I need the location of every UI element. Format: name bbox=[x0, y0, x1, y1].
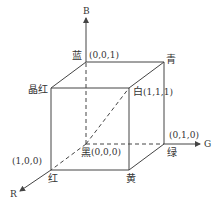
b-axis-label: B bbox=[83, 6, 90, 16]
g-axis-label: G bbox=[204, 139, 211, 149]
rgb-cube-diagram: B G R 蓝 (0,0,1) 青 晶红 白 (1,1,1) 黑 (0,0,0)… bbox=[0, 0, 221, 206]
vertex-magenta-name: 晶红 bbox=[28, 83, 48, 95]
vertex-red-coord: (1,0,0) bbox=[12, 156, 42, 166]
r-axis bbox=[20, 170, 51, 191]
vertex-red-name: 红 bbox=[48, 172, 58, 184]
vertex-blue-coord: (0,0,1) bbox=[89, 50, 119, 60]
edge-blue-magenta bbox=[51, 62, 86, 88]
diagonal-black-white bbox=[86, 88, 129, 144]
vertex-blue-name: 蓝 bbox=[72, 50, 82, 61]
vertex-white-coord: (1,1,1) bbox=[143, 87, 173, 97]
vertex-cyan-name: 青 bbox=[166, 53, 176, 65]
vertex-white-name: 白 bbox=[133, 85, 143, 97]
r-axis-label: R bbox=[10, 189, 17, 199]
edge-yellow-green bbox=[129, 144, 164, 170]
vertex-yellow-name: 黄 bbox=[126, 172, 136, 184]
vertex-green-coord: (0,1,0) bbox=[169, 130, 199, 140]
edge-cyan-white bbox=[129, 62, 164, 88]
vertex-black-coord: (0,0,0) bbox=[91, 147, 121, 157]
vertex-black-name: 黑 bbox=[81, 147, 91, 158]
vertex-green-name: 绿 bbox=[167, 146, 177, 158]
